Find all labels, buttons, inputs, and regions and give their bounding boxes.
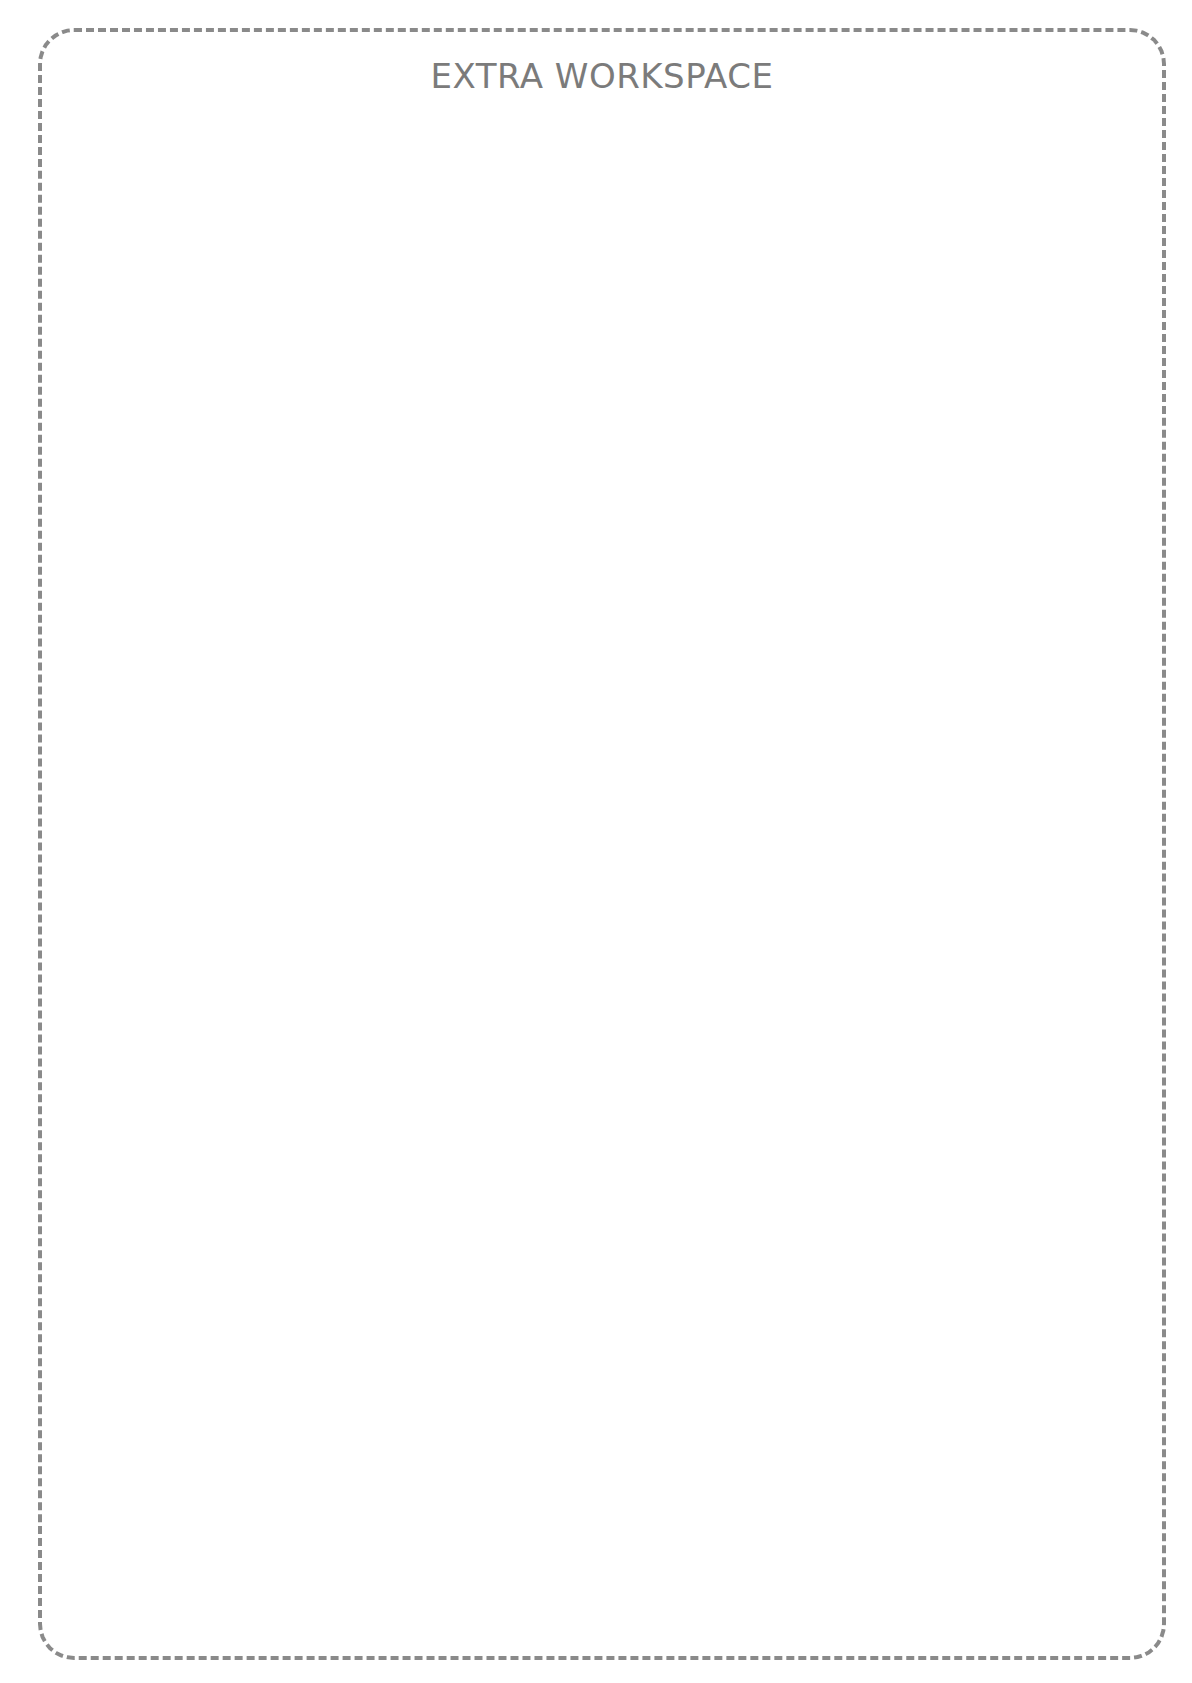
blank-writing-area (62, 122, 1142, 1636)
workspace-title: EXTRA WORKSPACE (42, 56, 1162, 96)
extra-workspace-box: EXTRA WORKSPACE (38, 28, 1166, 1660)
